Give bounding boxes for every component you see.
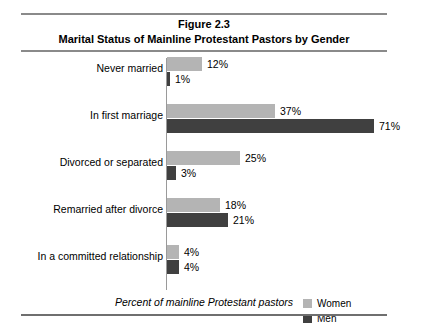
bar-women: [167, 198, 220, 212]
bar-women: [167, 245, 179, 259]
figure-title: Marital Status of Mainline Protestant Pa…: [21, 32, 387, 47]
figure-title-block: Figure 2.3 Marital Status of Mainline Pr…: [21, 17, 387, 47]
category-label: In first marriage: [3, 109, 163, 121]
bar-group: Never married 12% 1%: [0, 56, 421, 89]
figure-number: Figure 2.3: [21, 17, 387, 32]
bar-group: In a committed relationship 4% 4%: [0, 244, 421, 277]
axis-caption: Percent of mainline Protestant pastors: [21, 296, 387, 308]
bar-group: Remarried after divorce 18% 21%: [0, 197, 421, 230]
bar-value-men: 3%: [176, 166, 196, 180]
figure-container: Figure 2.3 Marital Status of Mainline Pr…: [0, 0, 421, 330]
category-label: Divorced or separated: [3, 156, 163, 168]
bar-value-men: 1%: [170, 72, 190, 86]
bar-value-women: 4%: [179, 245, 199, 259]
bar-men: [167, 119, 374, 133]
bar-men: [167, 213, 228, 227]
bar-value-men: 21%: [228, 213, 254, 227]
bar-value-women: 25%: [240, 151, 266, 165]
category-label: Never married: [3, 62, 163, 74]
bar-women: [167, 104, 275, 118]
bar-women: [167, 57, 202, 71]
bar-group: Divorced or separated 25% 3%: [0, 150, 421, 183]
bar-men: [167, 166, 176, 180]
bar-value-women: 12%: [202, 57, 228, 71]
bar-value-men: 4%: [179, 260, 199, 274]
bar-value-women: 37%: [275, 104, 301, 118]
bar-value-women: 18%: [220, 198, 246, 212]
category-label: Remarried after divorce: [3, 203, 163, 215]
top-rule: [21, 13, 387, 15]
bar-group: In first marriage 37% 71%: [0, 103, 421, 136]
title-underline-rule: [21, 50, 387, 52]
bar-women: [167, 151, 240, 165]
bar-value-men: 71%: [374, 119, 400, 133]
bottom-rule: [21, 314, 387, 316]
bar-men: [167, 260, 179, 274]
category-label: In a committed relationship: [3, 250, 163, 262]
plot-area: Never married 12% 1% In first marriage 3…: [0, 56, 421, 294]
